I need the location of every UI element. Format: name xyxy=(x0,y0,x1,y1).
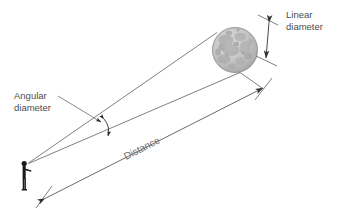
sight-line-upper xyxy=(29,33,218,164)
distance-tick-left xyxy=(36,186,52,208)
linear-diameter-tick-upper xyxy=(258,15,278,25)
angular-diameter-label-line1: Angular xyxy=(14,90,47,101)
angular-diameter-leader-line xyxy=(58,96,101,122)
angular-diameter-arc xyxy=(104,119,109,136)
observer-figure xyxy=(22,161,32,191)
angular-arc-double-arrow xyxy=(104,119,109,136)
angular-diameter-label-line2: diameter xyxy=(14,102,51,113)
linear-diameter-label-line2: diameter xyxy=(286,21,323,32)
linear-diameter-tick-lower xyxy=(256,56,277,66)
distance-tick-right xyxy=(255,78,272,100)
distance-label: Distance xyxy=(122,134,162,162)
linear-diameter-arrow xyxy=(256,15,278,66)
moon-sphere xyxy=(213,28,258,73)
angular-diameter-diagram: Linear diameter Distance Angular diamete… xyxy=(0,0,342,221)
sight-line-lower-extension xyxy=(240,73,262,89)
linear-diameter-label-line1: Linear xyxy=(286,9,312,20)
linear-diameter-double-arrow xyxy=(266,23,269,59)
